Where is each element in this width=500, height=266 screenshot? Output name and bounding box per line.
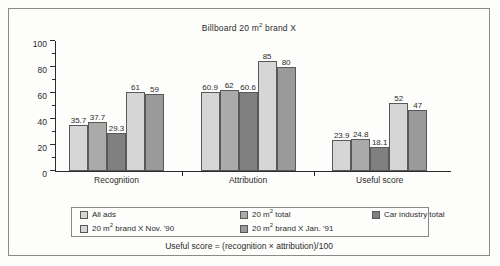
legend-label: Car industry total bbox=[384, 210, 444, 219]
bar[interactable]: 47 bbox=[408, 110, 427, 171]
bar-value-label: 47 bbox=[413, 101, 422, 110]
legend-row-1: All ads20 m2 totalCar industry total bbox=[72, 210, 428, 224]
y-tick-major bbox=[50, 118, 55, 119]
bar-group: 35.737.729.36159 bbox=[69, 41, 164, 171]
bar-value-label: 35.7 bbox=[71, 116, 87, 125]
legend-swatch bbox=[240, 225, 248, 233]
y-tick-major bbox=[50, 40, 55, 41]
bar-value-label: 29.3 bbox=[109, 124, 125, 133]
y-tick-label: 20 bbox=[17, 148, 47, 149]
bar[interactable]: 35.7 bbox=[69, 125, 88, 171]
y-tick-label: 40 bbox=[17, 122, 47, 123]
bar[interactable]: 61 bbox=[126, 92, 145, 171]
bar-group: 23.924.818.15247 bbox=[332, 41, 427, 171]
y-tick-label: 100 bbox=[17, 44, 47, 45]
legend-label: 20 m2 brand X Nov. '90 bbox=[92, 224, 174, 233]
bar-value-label: 23.9 bbox=[334, 131, 350, 140]
bar-value-label: 60.9 bbox=[202, 83, 218, 92]
bar-value-label: 60.6 bbox=[240, 83, 256, 92]
x-axis-line bbox=[55, 171, 451, 172]
bar-value-label: 85 bbox=[263, 52, 272, 61]
y-tick-minor bbox=[52, 131, 55, 132]
legend-label: 20 m2 total bbox=[252, 210, 290, 219]
y-axis-line bbox=[55, 41, 56, 171]
category-label: Attribution bbox=[201, 175, 296, 185]
category-label: Useful score bbox=[332, 175, 427, 185]
bar-group: 60.96260.68580 bbox=[201, 41, 296, 171]
footnote: Useful score = (recognition × attributio… bbox=[9, 241, 489, 251]
legend-item[interactable]: All ads bbox=[80, 210, 116, 219]
y-tick-major bbox=[50, 66, 55, 67]
bar-value-label: 62 bbox=[225, 81, 234, 90]
bar-value-label: 61 bbox=[131, 83, 140, 92]
legend-swatch bbox=[372, 211, 380, 219]
y-tick-major bbox=[50, 144, 55, 145]
chart-frame: Billboard 20 m2 brand X 020406080100 35.… bbox=[8, 8, 490, 256]
chart-title: Billboard 20 m2 brand X bbox=[9, 23, 489, 33]
legend-item[interactable]: 20 m2 brand X Nov. '90 bbox=[80, 224, 174, 233]
legend-swatch bbox=[80, 225, 88, 233]
plot-area: 020406080100 35.737.729.3615960.96260.68… bbox=[55, 41, 451, 171]
group-separator-tick bbox=[314, 172, 315, 176]
bar-value-label: 24.8 bbox=[353, 130, 369, 139]
bar[interactable]: 23.9 bbox=[332, 140, 351, 171]
bar[interactable]: 29.3 bbox=[107, 133, 126, 171]
y-tick-minor bbox=[52, 53, 55, 54]
y-tick-minor bbox=[52, 157, 55, 158]
bar[interactable]: 37.7 bbox=[88, 122, 107, 171]
bar[interactable]: 60.9 bbox=[201, 92, 220, 171]
y-tick-label: 60 bbox=[17, 96, 47, 97]
bar[interactable]: 59 bbox=[145, 94, 164, 171]
bar[interactable]: 60.6 bbox=[239, 92, 258, 171]
y-tick-minor bbox=[52, 79, 55, 80]
bar-value-label: 80 bbox=[282, 58, 291, 67]
bar[interactable]: 24.8 bbox=[351, 139, 370, 171]
y-tick-label: 80 bbox=[17, 70, 47, 71]
bar-value-label: 59 bbox=[150, 85, 159, 94]
legend-swatch bbox=[240, 211, 248, 219]
bar[interactable]: 80 bbox=[277, 67, 296, 171]
bar-value-label: 52 bbox=[394, 94, 403, 103]
bar[interactable]: 52 bbox=[389, 103, 408, 171]
legend-item[interactable]: 20 m2 brand X Jan. '91 bbox=[240, 224, 333, 233]
bar-value-label: 18.1 bbox=[372, 138, 388, 147]
y-tick-minor bbox=[52, 105, 55, 106]
legend-item[interactable]: 20 m2 total bbox=[240, 210, 290, 219]
bar[interactable]: 85 bbox=[258, 61, 277, 172]
bar-value-label: 37.7 bbox=[90, 113, 106, 122]
legend-label: 20 m2 brand X Jan. '91 bbox=[252, 224, 333, 233]
legend-swatch bbox=[80, 211, 88, 219]
group-separator-tick bbox=[182, 172, 183, 176]
legend-label: All ads bbox=[92, 210, 116, 219]
y-tick-major bbox=[50, 170, 55, 171]
legend-item[interactable]: Car industry total bbox=[372, 210, 444, 219]
category-label: Recognition bbox=[69, 175, 164, 185]
bar[interactable]: 62 bbox=[220, 90, 239, 171]
bar[interactable]: 18.1 bbox=[370, 147, 389, 171]
y-tick-major bbox=[50, 92, 55, 93]
legend-row-2: 20 m2 brand X Nov. '9020 m2 brand X Jan.… bbox=[72, 224, 428, 238]
y-tick-label: 0 bbox=[17, 174, 47, 175]
legend: All ads20 m2 totalCar industry total 20 … bbox=[71, 207, 429, 237]
